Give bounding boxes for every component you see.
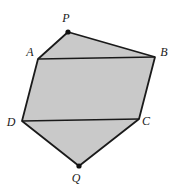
vertex-label-q: Q: [72, 171, 81, 185]
geometry-canvas: P A B C D Q: [0, 0, 180, 190]
vertex-label-a: A: [25, 45, 34, 59]
vertex-marker-q: [76, 163, 81, 168]
vertex-label-p: P: [61, 11, 70, 25]
vertex-marker-p: [65, 29, 70, 34]
vertex-label-d: D: [6, 115, 16, 129]
vertex-label-b: B: [160, 45, 168, 59]
vertex-label-c: C: [142, 114, 151, 128]
geometry-figure: P A B C D Q: [0, 0, 180, 190]
outer-hexagon-shape: [22, 32, 155, 166]
